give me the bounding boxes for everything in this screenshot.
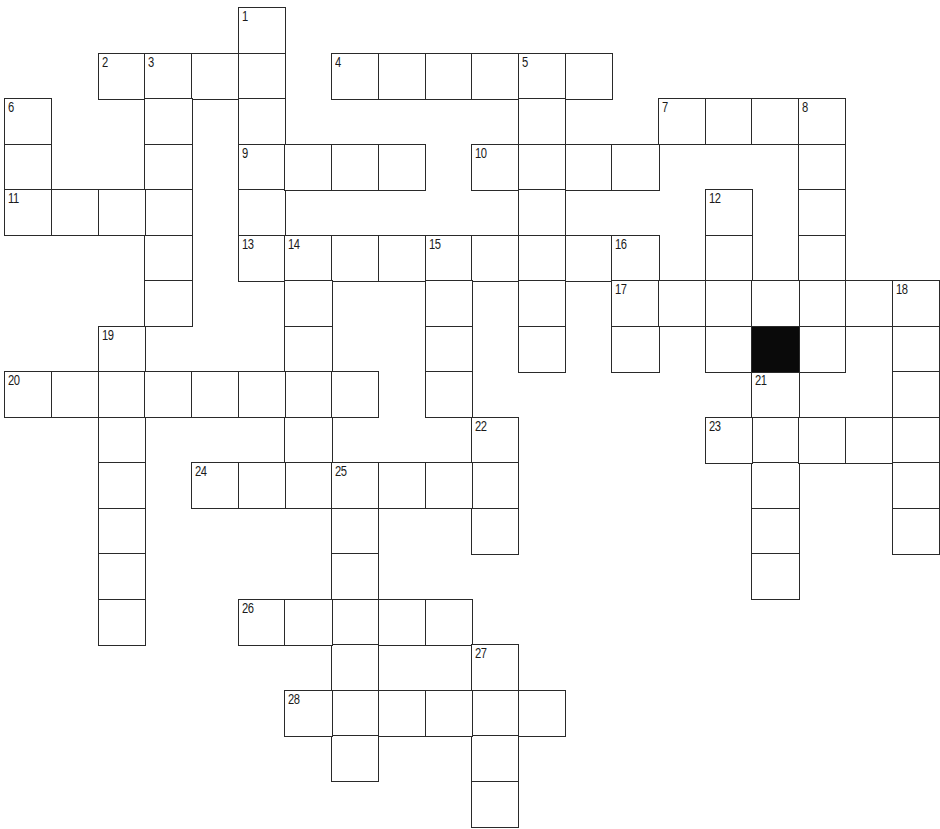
crossword-cell[interactable] xyxy=(471,235,519,282)
crossword-cell[interactable]: 20 xyxy=(4,371,52,418)
crossword-cell[interactable]: 5 xyxy=(518,53,566,100)
crossword-cell[interactable] xyxy=(98,508,146,555)
crossword-cell[interactable] xyxy=(425,462,473,509)
crossword-cell[interactable] xyxy=(705,235,753,282)
crossword-cell[interactable] xyxy=(425,326,473,373)
crossword-cell[interactable] xyxy=(798,235,846,282)
crossword-cell[interactable] xyxy=(144,189,192,236)
crossword-cell[interactable] xyxy=(378,462,426,509)
crossword-cell[interactable]: 24 xyxy=(191,462,239,509)
crossword-cell[interactable] xyxy=(331,508,379,555)
crossword-cell[interactable]: 7 xyxy=(658,98,706,145)
crossword-cell[interactable] xyxy=(191,53,239,100)
crossword-cell[interactable] xyxy=(518,98,566,145)
crossword-cell[interactable] xyxy=(331,553,379,600)
crossword-cell[interactable] xyxy=(751,462,799,509)
crossword-cell[interactable] xyxy=(98,599,146,646)
crossword-cell[interactable] xyxy=(98,189,146,236)
crossword-cell[interactable]: 23 xyxy=(705,417,753,464)
crossword-cell[interactable] xyxy=(892,371,940,418)
crossword-cell[interactable] xyxy=(798,144,846,191)
crossword-cell[interactable] xyxy=(518,280,566,327)
crossword-cell[interactable] xyxy=(238,462,286,509)
crossword-cell[interactable] xyxy=(518,326,566,373)
crossword-cell[interactable] xyxy=(331,599,379,646)
crossword-cell[interactable] xyxy=(798,417,846,464)
crossword-cell[interactable] xyxy=(98,371,146,418)
crossword-cell[interactable] xyxy=(284,144,332,191)
crossword-cell[interactable] xyxy=(144,280,192,327)
crossword-cell[interactable]: 9 xyxy=(238,144,286,191)
crossword-cell[interactable]: 28 xyxy=(284,690,332,737)
crossword-cell[interactable] xyxy=(751,98,799,145)
crossword-cell[interactable] xyxy=(331,735,379,782)
crossword-cell[interactable]: 22 xyxy=(471,417,519,464)
crossword-cell[interactable]: 19 xyxy=(98,326,146,373)
crossword-cell[interactable] xyxy=(144,371,192,418)
crossword-cell[interactable] xyxy=(565,144,613,191)
crossword-cell[interactable] xyxy=(331,371,379,418)
crossword-cell[interactable] xyxy=(331,690,379,737)
crossword-cell[interactable] xyxy=(284,371,332,418)
crossword-cell[interactable] xyxy=(471,690,519,737)
crossword-cell[interactable] xyxy=(798,280,846,327)
crossword-cell[interactable] xyxy=(425,371,473,418)
crossword-cell[interactable] xyxy=(471,53,519,100)
crossword-cell[interactable] xyxy=(845,417,893,464)
crossword-cell[interactable] xyxy=(378,690,426,737)
crossword-cell[interactable]: 18 xyxy=(892,280,940,327)
crossword-cell[interactable] xyxy=(331,144,379,191)
crossword-cell[interactable] xyxy=(191,371,239,418)
crossword-cell[interactable] xyxy=(98,417,146,464)
crossword-cell[interactable] xyxy=(144,98,192,145)
crossword-cell[interactable]: 6 xyxy=(4,98,52,145)
crossword-cell[interactable] xyxy=(471,462,519,509)
crossword-cell[interactable] xyxy=(4,144,52,191)
crossword-cell[interactable] xyxy=(425,599,473,646)
crossword-cell[interactable] xyxy=(892,508,940,555)
crossword-cell[interactable]: 3 xyxy=(144,53,192,100)
crossword-cell[interactable] xyxy=(705,326,753,373)
crossword-cell[interactable] xyxy=(751,417,799,464)
crossword-cell[interactable] xyxy=(98,553,146,600)
crossword-cell[interactable] xyxy=(284,599,332,646)
crossword-cell[interactable] xyxy=(51,189,99,236)
crossword-cell[interactable] xyxy=(845,280,893,327)
crossword-cell[interactable]: 2 xyxy=(98,53,146,100)
crossword-cell[interactable]: 4 xyxy=(331,53,379,100)
crossword-cell[interactable] xyxy=(378,235,426,282)
crossword-cell[interactable] xyxy=(284,462,332,509)
crossword-cell[interactable] xyxy=(798,189,846,236)
crossword-cell[interactable]: 25 xyxy=(331,462,379,509)
crossword-cell[interactable] xyxy=(798,326,846,373)
crossword-cell[interactable] xyxy=(378,144,426,191)
crossword-cell[interactable]: 13 xyxy=(238,235,286,282)
crossword-cell[interactable] xyxy=(238,371,286,418)
crossword-cell[interactable]: 27 xyxy=(471,644,519,691)
crossword-cell[interactable]: 10 xyxy=(471,144,519,191)
crossword-cell[interactable] xyxy=(611,144,659,191)
crossword-cell[interactable] xyxy=(471,735,519,782)
crossword-cell[interactable] xyxy=(518,189,566,236)
crossword-cell[interactable] xyxy=(705,280,753,327)
crossword-cell[interactable] xyxy=(144,235,192,282)
crossword-cell[interactable] xyxy=(425,690,473,737)
crossword-cell[interactable]: 21 xyxy=(751,371,799,418)
crossword-cell[interactable] xyxy=(425,280,473,327)
crossword-cell[interactable] xyxy=(471,508,519,555)
crossword-cell[interactable]: 1 xyxy=(238,7,286,54)
crossword-cell[interactable] xyxy=(705,98,753,145)
crossword-cell[interactable] xyxy=(238,53,286,100)
crossword-cell[interactable] xyxy=(238,189,286,236)
crossword-cell[interactable] xyxy=(425,53,473,100)
crossword-cell[interactable]: 8 xyxy=(798,98,846,145)
crossword-cell[interactable] xyxy=(471,781,519,828)
crossword-cell[interactable]: 12 xyxy=(705,189,753,236)
crossword-cell[interactable] xyxy=(331,235,379,282)
crossword-cell[interactable] xyxy=(658,280,706,327)
crossword-cell[interactable] xyxy=(751,280,799,327)
crossword-cell[interactable] xyxy=(518,144,566,191)
crossword-cell[interactable]: 16 xyxy=(611,235,659,282)
crossword-cell[interactable] xyxy=(611,326,659,373)
crossword-cell[interactable] xyxy=(238,98,286,145)
